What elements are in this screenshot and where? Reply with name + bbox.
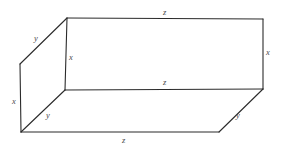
label-y-bottom-right: y bbox=[236, 111, 240, 120]
edge-bottom-right-receding-y bbox=[219, 89, 263, 132]
label-y-top-left: y bbox=[34, 34, 38, 43]
label-z-bottom: z bbox=[122, 136, 125, 145]
label-x-back-left: x bbox=[12, 97, 16, 106]
label-z-top: z bbox=[163, 8, 166, 17]
edge-top-left-receding-y bbox=[20, 18, 67, 64]
edge-bottom-left-receding-y bbox=[21, 90, 65, 132]
label-x-right: x bbox=[266, 48, 270, 57]
box-wireframe-svg bbox=[0, 0, 283, 150]
label-y-bottom-left: y bbox=[46, 111, 50, 120]
label-z-middle: z bbox=[163, 78, 166, 87]
label-x-front-left: x bbox=[69, 53, 73, 62]
edge-middle-horizontal-z bbox=[65, 89, 263, 90]
edge-front-left-vertical-x bbox=[65, 18, 67, 90]
edge-top-far-z bbox=[67, 18, 263, 19]
box-diagram-figure: z y x x z x y y z bbox=[0, 0, 283, 150]
edge-back-left-vertical-x bbox=[20, 64, 21, 132]
